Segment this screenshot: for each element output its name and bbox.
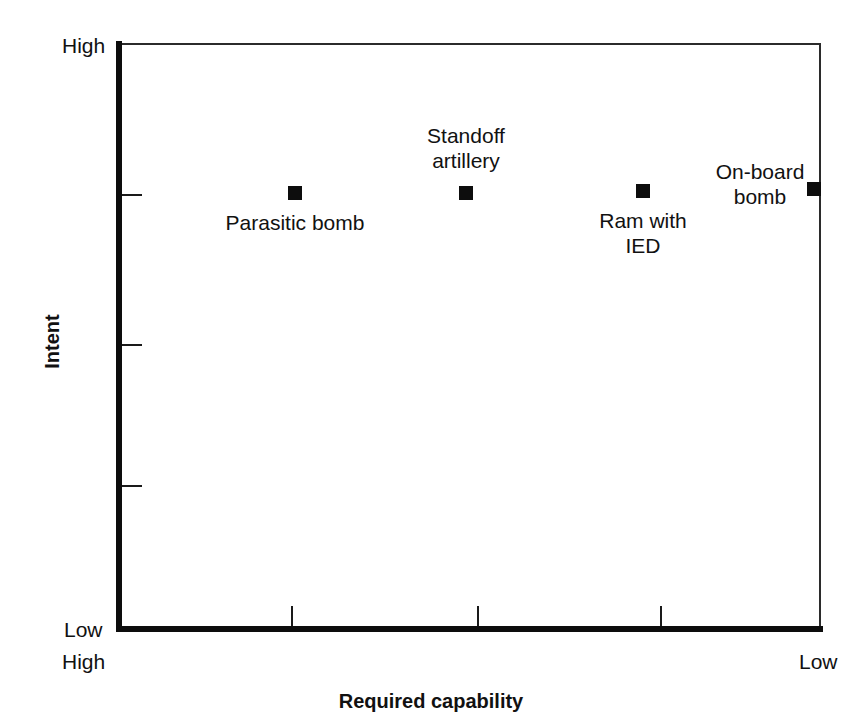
y-axis-tick-3 xyxy=(122,485,142,487)
x-axis-line xyxy=(116,626,823,632)
x-axis-low-label: Low xyxy=(799,651,838,672)
y-axis-tick-1 xyxy=(122,194,142,196)
x-axis-high-label: High xyxy=(62,651,105,672)
data-point-parasitic-bomb[interactable] xyxy=(288,186,302,200)
data-label-standoff-artillery: Standoff artillery xyxy=(427,124,505,174)
data-point-on-board-bomb[interactable] xyxy=(807,182,821,196)
data-label-parasitic-bomb: Parasitic bomb xyxy=(226,211,365,236)
scatter-chart-figure: High Low High Low Intent Required capabi… xyxy=(0,0,862,725)
data-label-ram-with-ied: Ram with IED xyxy=(599,209,687,259)
y-axis-line xyxy=(116,41,122,632)
x-axis-tick-3 xyxy=(660,606,662,626)
y-axis-low-label: Low xyxy=(64,619,103,640)
data-label-on-board-bomb: On-board bomb xyxy=(716,160,805,210)
y-axis-title: Intent xyxy=(41,282,64,402)
y-axis-high-label: High xyxy=(62,35,105,56)
data-point-standoff-artillery[interactable] xyxy=(459,186,473,200)
data-point-ram-with-ied[interactable] xyxy=(636,184,650,198)
x-axis-tick-2 xyxy=(477,606,479,626)
y-axis-tick-2 xyxy=(122,344,142,346)
x-axis-title: Required capability xyxy=(0,690,862,713)
x-axis-tick-1 xyxy=(291,606,293,626)
